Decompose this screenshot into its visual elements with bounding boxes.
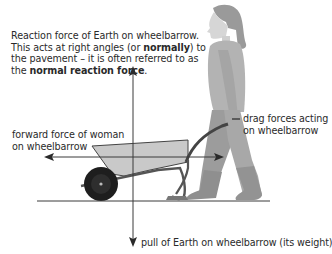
reaction-line-4-pre: the [11, 65, 29, 76]
weight-label: pull of Earth on wheelbarrow (its weight… [141, 237, 332, 249]
reaction-line-3: the pavement – it is often referred to a… [11, 53, 206, 65]
reaction-line-1: Reaction force of Earth on wheelbarrow. [11, 30, 206, 42]
normal-reaction-force-term: normal reaction force [29, 65, 144, 76]
normal-reaction-label: Reaction force of Earth on wheelbarrow. … [11, 30, 206, 76]
drag-line-1: drag forces acting [243, 113, 328, 125]
reaction-line-4: the normal reaction force. [11, 65, 206, 77]
reaction-line-2-post: ) to [190, 42, 206, 53]
drag-force-label: drag forces acting on wheelbarrow [243, 113, 328, 136]
reaction-line-4-post: . [144, 65, 147, 76]
reaction-line-2-pre: This acts at right angles (or [11, 42, 143, 53]
forward-force-label: forward force of woman on wheelbarrow [12, 129, 124, 152]
normally-term: normally [143, 42, 190, 53]
forward-line-2: on wheelbarrow [12, 141, 124, 153]
drag-line-2: on wheelbarrow [243, 125, 328, 137]
weight-text: pull of Earth on wheelbarrow (its weight… [141, 237, 332, 248]
forward-line-1: forward force of woman [12, 129, 124, 141]
reaction-line-2: This acts at right angles (or normally) … [11, 42, 206, 54]
